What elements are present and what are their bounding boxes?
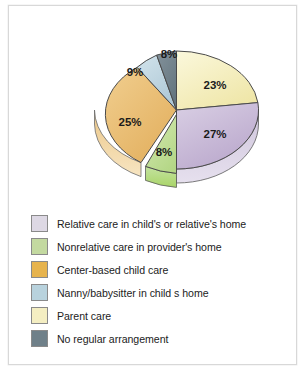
slice-label-center-based: 25% [118,116,141,128]
legend-item-relative-care: Relative care in child's or relative's h… [31,212,283,235]
slice-label-relative-care: 27% [203,128,226,140]
legend-item-label: Nanny/babysitter in child s home [57,287,209,299]
legend-item-center-based: Center-based child care [31,258,283,281]
slice-label-nanny: 9% [127,66,144,78]
legend-item-label: Relative care in child's or relative's h… [57,218,246,230]
pie-chart: 23% 27% 8% 25% 9% 8% [9,10,296,206]
slice-label-parent-care: 23% [203,79,226,91]
legend-item-label: Nonrelative care in provider's home [57,241,222,253]
slice-label-nonrelative-care: 8% [156,146,173,158]
figure-frame: 23% 27% 8% 25% 9% 8% Relative care in ch… [8,5,297,365]
legend-swatch-icon [31,215,48,232]
legend-item-label: No regular arrangement [57,333,168,345]
slice-label-no-arrangement: 8% [161,48,178,60]
legend-swatch-icon [31,238,48,255]
pie-chart-svg: 23% 27% 8% 25% 9% 8% [9,10,296,206]
legend-item-label: Parent care [57,310,111,322]
legend-item-nonrelative-care: Nonrelative care in provider's home [31,235,283,258]
legend-item-parent-care: Parent care [31,304,283,327]
legend-item-no-arrangement: No regular arrangement [31,327,283,350]
legend-swatch-icon [31,307,48,324]
legend-item-nanny: Nanny/babysitter in child s home [31,281,283,304]
legend-swatch-icon [31,261,48,278]
legend-swatch-icon [31,330,48,347]
chart-legend: Relative care in child's or relative's h… [31,212,283,350]
legend-item-label: Center-based child care [57,264,168,276]
legend-swatch-icon [31,284,48,301]
